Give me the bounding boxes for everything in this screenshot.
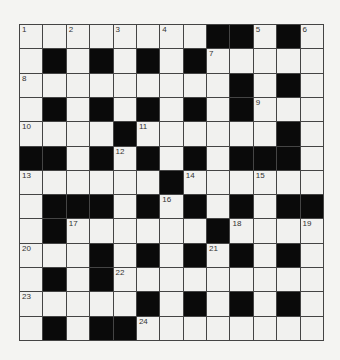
crossword-cell[interactable] [137,25,159,48]
crossword-cell[interactable] [43,25,65,48]
crossword-cell[interactable]: 18 [230,219,252,242]
crossword-cell[interactable] [43,292,65,315]
crossword-cell[interactable] [20,268,42,291]
crossword-cell[interactable] [301,147,323,170]
crossword-cell[interactable] [254,244,276,267]
crossword-cell[interactable] [67,122,89,145]
crossword-cell[interactable]: 19 [301,219,323,242]
crossword-cell[interactable] [114,98,136,121]
crossword-cell[interactable] [301,171,323,194]
crossword-cell[interactable] [67,49,89,72]
crossword-cell[interactable] [160,49,182,72]
crossword-cell[interactable] [160,244,182,267]
crossword-cell[interactable]: 23 [20,292,42,315]
crossword-cell[interactable]: 1 [20,25,42,48]
crossword-cell[interactable]: 7 [207,49,229,72]
crossword-cell[interactable] [184,219,206,242]
crossword-cell[interactable] [160,219,182,242]
crossword-cell[interactable] [301,122,323,145]
crossword-cell[interactable] [137,74,159,97]
crossword-cell[interactable] [90,25,112,48]
crossword-cell[interactable]: 24 [137,317,159,340]
crossword-cell[interactable] [277,49,299,72]
crossword-cell[interactable]: 16 [160,195,182,218]
crossword-cell[interactable] [160,147,182,170]
crossword-cell[interactable] [277,317,299,340]
crossword-cell[interactable] [43,122,65,145]
crossword-cell[interactable] [160,292,182,315]
crossword-cell[interactable] [20,98,42,121]
crossword-cell[interactable] [254,268,276,291]
crossword-cell[interactable] [90,122,112,145]
crossword-cell[interactable] [20,219,42,242]
crossword-cell[interactable]: 8 [20,74,42,97]
crossword-cell[interactable] [277,171,299,194]
crossword-cell[interactable]: 12 [114,147,136,170]
crossword-cell[interactable] [207,195,229,218]
crossword-cell[interactable] [114,49,136,72]
crossword-cell[interactable] [230,317,252,340]
crossword-cell[interactable] [184,268,206,291]
crossword-cell[interactable] [43,74,65,97]
crossword-cell[interactable] [90,219,112,242]
crossword-cell[interactable] [67,74,89,97]
crossword-cell[interactable] [184,317,206,340]
crossword-cell[interactable] [301,317,323,340]
crossword-cell[interactable]: 17 [67,219,89,242]
crossword-cell[interactable]: 2 [67,25,89,48]
crossword-cell[interactable] [254,219,276,242]
crossword-cell[interactable] [230,49,252,72]
crossword-cell[interactable]: 20 [20,244,42,267]
crossword-cell[interactable] [67,317,89,340]
crossword-cell[interactable]: 3 [114,25,136,48]
crossword-cell[interactable] [90,74,112,97]
crossword-cell[interactable] [114,171,136,194]
crossword-cell[interactable] [160,122,182,145]
crossword-cell[interactable]: 9 [254,98,276,121]
crossword-cell[interactable]: 5 [254,25,276,48]
crossword-cell[interactable] [207,292,229,315]
crossword-cell[interactable] [67,98,89,121]
crossword-cell[interactable] [301,292,323,315]
crossword-cell[interactable] [254,317,276,340]
crossword-cell[interactable] [207,268,229,291]
crossword-cell[interactable] [137,171,159,194]
crossword-cell[interactable] [207,317,229,340]
crossword-cell[interactable] [160,98,182,121]
crossword-cell[interactable] [67,292,89,315]
crossword-cell[interactable] [114,244,136,267]
crossword-cell[interactable] [137,268,159,291]
crossword-cell[interactable]: 11 [137,122,159,145]
crossword-cell[interactable] [137,219,159,242]
crossword-cell[interactable] [43,244,65,267]
crossword-cell[interactable] [207,74,229,97]
crossword-cell[interactable] [207,98,229,121]
crossword-cell[interactable] [301,49,323,72]
crossword-cell[interactable]: 4 [160,25,182,48]
crossword-cell[interactable] [254,195,276,218]
crossword-cell[interactable] [230,268,252,291]
crossword-cell[interactable] [67,171,89,194]
crossword-cell[interactable] [160,268,182,291]
crossword-cell[interactable] [277,98,299,121]
crossword-cell[interactable] [207,171,229,194]
crossword-cell[interactable] [43,171,65,194]
crossword-cell[interactable] [254,292,276,315]
crossword-cell[interactable] [114,292,136,315]
crossword-cell[interactable] [207,147,229,170]
crossword-cell[interactable] [184,122,206,145]
crossword-cell[interactable]: 14 [184,171,206,194]
crossword-cell[interactable] [184,74,206,97]
crossword-cell[interactable] [67,268,89,291]
crossword-cell[interactable] [254,122,276,145]
crossword-cell[interactable] [20,49,42,72]
crossword-cell[interactable] [20,195,42,218]
crossword-cell[interactable] [114,219,136,242]
crossword-cell[interactable] [160,74,182,97]
crossword-cell[interactable]: 21 [207,244,229,267]
crossword-cell[interactable] [254,74,276,97]
crossword-cell[interactable] [277,219,299,242]
crossword-cell[interactable] [301,244,323,267]
crossword-cell[interactable] [114,195,136,218]
crossword-cell[interactable] [230,122,252,145]
